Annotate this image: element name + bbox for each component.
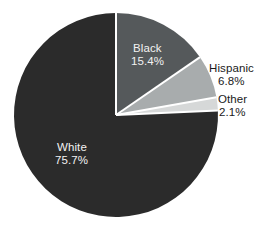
slice-label-white: White <box>57 141 87 153</box>
slice-label-black: Black <box>133 42 162 54</box>
slice-value-white: 75.7% <box>55 154 88 166</box>
slice-value-other: 2.1% <box>219 106 246 118</box>
pie-chart: Black 15.4% Hispanic 6.8% Other 2.1% Whi… <box>0 0 265 233</box>
slice-label-other: Other <box>218 93 247 105</box>
slice-label-hispanic: Hispanic <box>209 62 254 74</box>
slice-value-hispanic: 6.8% <box>218 75 245 87</box>
slice-value-black: 15.4% <box>131 55 164 67</box>
